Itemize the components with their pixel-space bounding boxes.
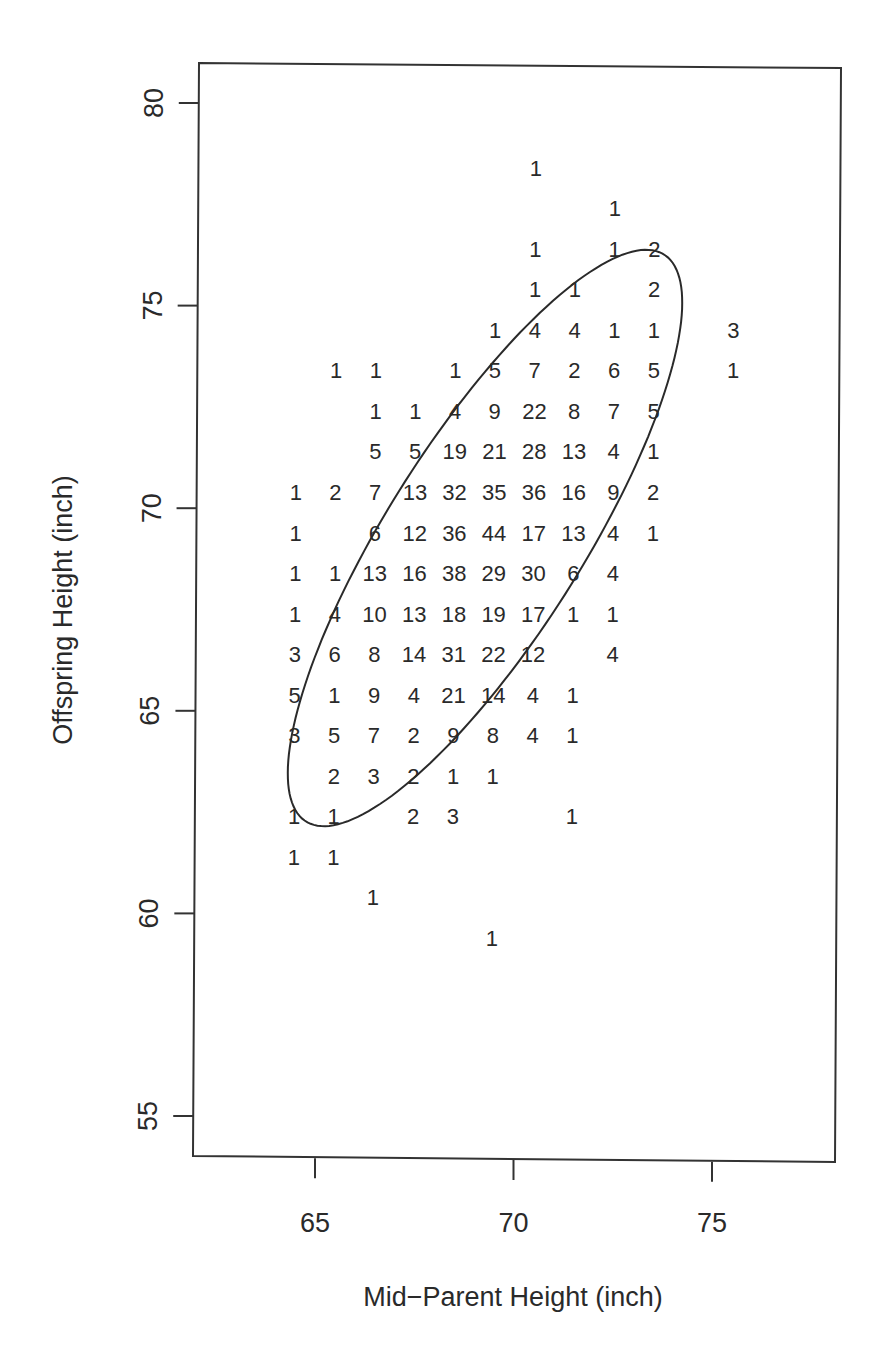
count-label: 30: [521, 561, 545, 586]
y-tick-label: 80: [139, 88, 169, 118]
count-label: 2: [648, 277, 660, 302]
count-label: 1: [727, 358, 739, 383]
count-label: 36: [522, 480, 546, 505]
count-label: 19: [443, 439, 467, 464]
count-label: 6: [328, 642, 340, 667]
count-label: 35: [482, 480, 506, 505]
count-label: 5: [648, 358, 660, 383]
count-label: 3: [368, 764, 380, 789]
count-label: 2: [329, 480, 341, 505]
count-label: 16: [561, 480, 585, 505]
count-label: 16: [402, 561, 426, 586]
count-label: 7: [368, 723, 380, 748]
count-label: 1: [449, 358, 461, 383]
count-label: 5: [489, 358, 501, 383]
y-axis-label: Offspring Height (inch): [48, 475, 78, 745]
count-label: 1: [609, 196, 621, 221]
count-label: 1: [409, 399, 421, 424]
count-label: 13: [402, 602, 426, 627]
count-label: 7: [369, 480, 381, 505]
count-label: 1: [529, 237, 541, 262]
count-label: 1: [487, 764, 499, 789]
count-label: 17: [522, 521, 546, 546]
count-label: 29: [482, 561, 506, 586]
count-label: 1: [648, 318, 660, 343]
count-label: 2: [568, 358, 580, 383]
x-axis: 657075: [300, 1158, 727, 1238]
count-label: 1: [486, 926, 498, 951]
count-label: 4: [568, 318, 580, 343]
count-label: 1: [330, 358, 342, 383]
count-label: 1: [289, 561, 301, 586]
count-label: 22: [481, 642, 505, 667]
count-label: 1: [489, 318, 501, 343]
count-label: 4: [607, 521, 619, 546]
count-label: 9: [489, 399, 501, 424]
x-tick-label: 75: [697, 1208, 727, 1238]
count-label: 36: [442, 521, 466, 546]
count-label: 4: [607, 439, 619, 464]
count-label: 1: [370, 358, 382, 383]
count-label: 18: [442, 602, 466, 627]
count-label: 4: [607, 561, 619, 586]
count-label: 1: [569, 277, 581, 302]
count-label: 21: [441, 683, 465, 708]
count-label: 31: [441, 642, 465, 667]
y-tick-label: 75: [138, 291, 168, 321]
count-label: 1: [370, 399, 382, 424]
count-label: 13: [363, 561, 387, 586]
count-label: 1: [530, 156, 542, 181]
count-label: 1: [289, 602, 301, 627]
count-label: 7: [529, 358, 541, 383]
count-label: 1: [607, 602, 619, 627]
count-label: 4: [606, 642, 618, 667]
count-label: 19: [481, 602, 505, 627]
count-label: 1: [328, 683, 340, 708]
count-label: 4: [329, 602, 341, 627]
count-label: 17: [521, 602, 545, 627]
count-label: 8: [487, 723, 499, 748]
count-label: 13: [561, 521, 585, 546]
count-label: 13: [562, 439, 586, 464]
count-label: 2: [647, 480, 659, 505]
count-label: 14: [402, 642, 426, 667]
x-axis-label: Mid−Parent Height (inch): [363, 1282, 662, 1312]
count-label: 2: [328, 764, 340, 789]
count-label: 1: [288, 845, 300, 870]
y-tick-label: 65: [135, 696, 165, 726]
count-label: 4: [527, 723, 539, 748]
count-label: 13: [403, 480, 427, 505]
count-label: 5: [369, 439, 381, 464]
x-tick-label: 65: [300, 1208, 330, 1238]
count-label: 1: [447, 764, 459, 789]
count-label: 44: [482, 521, 506, 546]
count-label: 1: [567, 602, 579, 627]
count-label: 3: [727, 318, 739, 343]
count-label: 9: [368, 683, 380, 708]
count-label: 12: [402, 521, 426, 546]
count-label: 22: [522, 399, 546, 424]
count-label: 21: [482, 439, 506, 464]
count-label: 1: [367, 885, 379, 910]
y-tick-label: 70: [137, 493, 167, 523]
count-label: 32: [442, 480, 466, 505]
count-labels: 1111211214411311157265111492287555192128…: [288, 156, 740, 951]
y-tick-label: 60: [134, 898, 164, 928]
count-label: 6: [608, 358, 620, 383]
count-label: 38: [442, 561, 466, 586]
count-label: 2: [407, 723, 419, 748]
count-label: 1: [529, 277, 541, 302]
count-label: 28: [522, 439, 546, 464]
count-label: 8: [568, 399, 580, 424]
count-label: 5: [328, 723, 340, 748]
count-label: 1: [327, 845, 339, 870]
count-label: 8: [368, 642, 380, 667]
count-label: 3: [447, 804, 459, 829]
count-label: 1: [566, 723, 578, 748]
count-label: 4: [527, 683, 539, 708]
count-label: 1: [647, 439, 659, 464]
count-label: 1: [289, 521, 301, 546]
count-label: 1: [566, 804, 578, 829]
count-label: 10: [362, 602, 386, 627]
count-label: 1: [647, 521, 659, 546]
